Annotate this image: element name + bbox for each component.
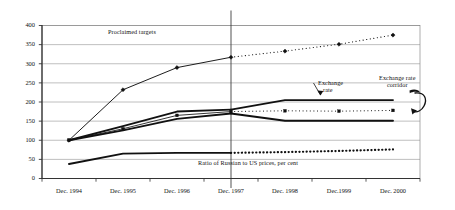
- y-axis-tick-label: 400: [11, 21, 35, 28]
- annotation-proclaimed-targets: Proclaimed targets: [108, 28, 156, 35]
- y-axis-tick-label: 350: [11, 40, 35, 47]
- x-axis-tick-label: Dec. 2000: [366, 187, 420, 194]
- x-axis-tick-label: Dec. 1996: [150, 187, 204, 194]
- annotation-corridor-line1: Exchange rate: [379, 74, 416, 81]
- annotation-exchange-rate-corridor: Exchange rate corridor: [379, 74, 416, 89]
- x-axis-tick-label: Dec.1999: [312, 187, 366, 194]
- annotation-corridor-line2: corridor: [387, 81, 408, 88]
- annotation-exchange-rate-line1: Exchange: [318, 79, 343, 86]
- y-axis-tick-label: 250: [11, 79, 35, 86]
- x-axis-tick-label: Dec. 1995: [96, 187, 150, 194]
- x-axis-tick-label: Dec. 1994: [42, 187, 96, 194]
- y-axis-tick-label: 50: [11, 155, 35, 162]
- y-axis-tick-label: 0: [11, 174, 35, 181]
- annotation-ratio-russian-us-prices: Ratio of Russian to US prices, per cent: [198, 159, 298, 166]
- y-axis-tick-label: 100: [11, 136, 35, 143]
- x-axis-tick-label: Dec. 1997: [204, 187, 258, 194]
- y-axis-tick-label: 150: [11, 117, 35, 124]
- chart-plot-area: [0, 0, 455, 210]
- annotation-exchange-rate-line2: rate: [318, 86, 343, 93]
- x-axis-tick-label: Dec. 1998: [258, 187, 312, 194]
- y-axis-tick-label: 300: [11, 60, 35, 67]
- annotation-exchange-rate: Exchange rate: [318, 79, 343, 93]
- chart-container: 050100150200250300350400 Dec. 1994Dec. 1…: [0, 0, 455, 210]
- y-axis-tick-label: 200: [11, 98, 35, 105]
